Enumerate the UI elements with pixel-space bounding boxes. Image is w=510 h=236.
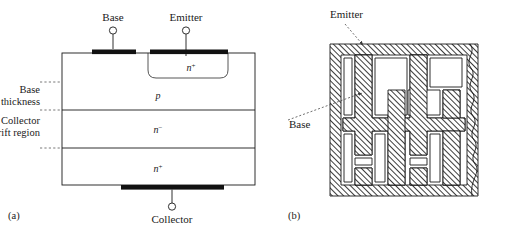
base-surface-gap-2 — [430, 58, 462, 87]
base-region-doping-label: p — [155, 90, 161, 101]
panel-a-caption: (a) — [8, 210, 20, 222]
panel-b: Emitter Base (b) — [288, 8, 478, 222]
base-thickness-label-line1: Base — [20, 84, 41, 95]
base-thickness-label-line2: thickness — [1, 96, 40, 107]
panel-b-base-label: Base — [289, 118, 311, 130]
drift-region-doping-label: n− — [154, 124, 163, 136]
emitter-finger-mid-lower-overlay — [410, 168, 427, 185]
panel-a: Base Emitter Collector n+ p — [0, 11, 255, 225]
figure-svg: Base Emitter Collector n+ p — [0, 0, 510, 236]
emitter-metal-contact — [150, 50, 228, 55]
emitter-terminal-node — [182, 27, 189, 34]
base-surface-gap-5 — [430, 134, 440, 182]
panel-b-emitter-leader — [345, 24, 363, 45]
collector-terminal-node — [168, 203, 175, 210]
base-surface-gap-3 — [344, 58, 352, 115]
panel-b-emitter-label: Emitter — [330, 8, 363, 20]
substrate-region-doping-label: n+ — [154, 163, 163, 175]
emitter-region-doping-label: n+ — [187, 62, 196, 74]
panel-b-layout-art — [330, 44, 478, 196]
base-surface-gap-4 — [375, 134, 385, 182]
emitter-finger-right-upper-overlay — [443, 90, 460, 118]
base-surface-gap-7 — [355, 158, 372, 165]
collector-drift-region-label-line2: drift region — [0, 127, 41, 138]
emitter-terminal-label: Emitter — [170, 11, 203, 23]
emitter-finger-center-upper-overlay — [388, 90, 405, 185]
figure-container: Base Emitter Collector n+ p — [0, 0, 510, 236]
base-terminal-label: Base — [102, 11, 124, 23]
collector-drift-region-label-line1: Collector — [1, 115, 41, 126]
panel-b-caption: (b) — [288, 210, 301, 222]
base-surface-gap-8 — [410, 158, 427, 165]
collector-terminal-label: Collector — [152, 213, 193, 225]
base-surface-gap-6 — [344, 134, 352, 182]
base-metal-contact — [92, 50, 136, 55]
base-terminal-node — [109, 27, 116, 34]
emitter-finger-right-lower-overlay — [443, 131, 460, 185]
emitter-finger-left-lower-overlay — [355, 168, 372, 185]
collector-metal-contact — [121, 185, 224, 190]
